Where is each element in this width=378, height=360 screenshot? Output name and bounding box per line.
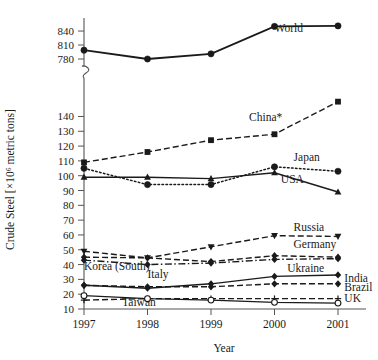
series-label-japan: Japan (294, 151, 320, 164)
y-axis-title: Crude Steel [×10⁶ metric tons] (4, 109, 16, 250)
y-tick-label: 10 (63, 303, 75, 315)
series-label-china: China* (249, 111, 282, 123)
y-axis-title-group: Crude Steel [×10⁶ metric tons] (4, 109, 16, 250)
y-tick-label: 120 (58, 140, 75, 152)
x-axis-title: Year (213, 342, 234, 354)
x-tick-label: 1999 (200, 318, 223, 330)
series-label-uk: UK (344, 292, 361, 304)
series-label-germany: Germany (294, 238, 337, 251)
x-tick-label: 2001 (327, 318, 350, 330)
crude-steel-production-chart: 1020304050607080901001101201301407808108… (0, 0, 378, 360)
marker-circle (81, 47, 87, 53)
y-tick-label: 80 (63, 199, 75, 211)
marker-diamond (81, 282, 87, 289)
series-label-korea-south: Korea (South) (84, 260, 150, 273)
y-tick-label: 780 (58, 53, 75, 65)
marker-square (335, 99, 341, 105)
x-tick-label: 1997 (73, 318, 96, 330)
y-axis-break-symbol (82, 66, 88, 78)
y-tick-label: 110 (58, 155, 75, 167)
y-tick-label: 70 (63, 214, 75, 226)
marker-open-circle (272, 299, 278, 305)
y-tick-label: 90 (63, 185, 75, 197)
marker-square (145, 149, 151, 155)
marker-circle (144, 56, 150, 62)
series-label-usa: USA (281, 173, 305, 185)
y-tick-label: 840 (58, 25, 75, 37)
marker-triangle-up (271, 169, 278, 175)
marker-diamond (271, 256, 277, 263)
marker-square (272, 131, 278, 137)
marker-open-circle (208, 297, 214, 303)
y-tick-label: 130 (58, 125, 75, 137)
marker-open-circle (81, 293, 87, 299)
marker-diamond (335, 280, 341, 287)
marker-triangle-down (208, 244, 215, 250)
marker-circle (335, 168, 341, 174)
marker-open-circle (335, 300, 341, 306)
y-tick-label: 60 (63, 229, 75, 241)
y-tick-label: 40 (63, 259, 75, 271)
marker-diamond (271, 280, 277, 287)
series-label-italy: Italy (148, 268, 169, 281)
series-label-russia: Russia (294, 221, 325, 233)
marker-circle (144, 181, 150, 187)
marker-square (208, 137, 214, 143)
y-tick-label: 20 (63, 288, 75, 300)
y-tick-label: 810 (58, 39, 75, 51)
marker-circle (81, 165, 87, 171)
marker-square (81, 159, 87, 165)
y-tick-label: 140 (58, 110, 75, 122)
marker-diamond (335, 271, 341, 278)
marker-open-circle (145, 296, 151, 302)
marker-diamond (271, 273, 277, 280)
marker-circle (271, 164, 277, 170)
series-label-ukraine: Ukraine (287, 262, 324, 274)
marker-circle (208, 181, 214, 187)
x-tick-label: 2000 (263, 318, 286, 330)
marker-circle (335, 23, 341, 29)
chart-canvas: 1020304050607080901001101201301407808108… (0, 0, 378, 360)
y-tick-label: 30 (63, 273, 75, 285)
marker-circle (208, 51, 214, 57)
x-tick-label: 1998 (136, 318, 159, 330)
y-tick-label: 100 (58, 170, 75, 182)
series-label-world: World (275, 22, 304, 34)
y-tick-label: 50 (63, 244, 75, 256)
